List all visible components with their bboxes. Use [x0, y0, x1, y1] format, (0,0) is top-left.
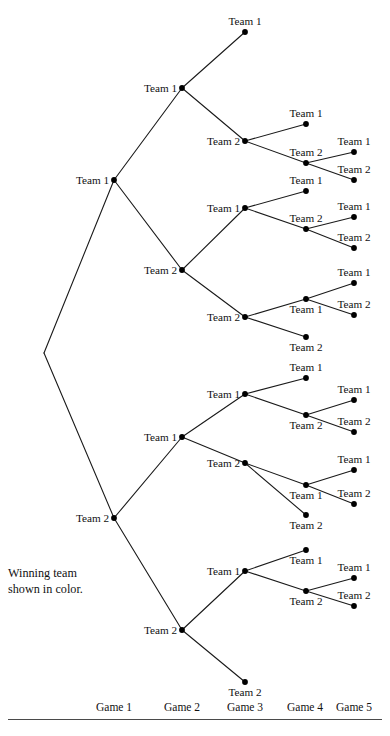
tree-node-label: Team 1	[338, 454, 371, 465]
tree-node-label: Team 1	[144, 432, 177, 443]
tree-node-label: Team 2	[338, 164, 371, 175]
game-axis-label: Game 3	[227, 702, 263, 714]
axis-rule	[8, 719, 382, 720]
tree-node-dot[interactable]	[303, 512, 309, 518]
tree-node-dot[interactable]	[242, 205, 248, 211]
tree-edge	[182, 630, 245, 682]
tree-node-dot[interactable]	[303, 121, 309, 127]
tree-node-label: Team 2	[144, 625, 177, 636]
tree-edge	[114, 180, 182, 270]
tree-node-dot[interactable]	[303, 160, 309, 166]
tree-node-dot[interactable]	[351, 467, 357, 473]
tree-node-label: Team 2	[207, 136, 240, 147]
tree-edge	[182, 208, 245, 270]
tree-node-label: Team 2	[207, 312, 240, 323]
tree-edge	[245, 124, 306, 141]
tree-edge	[114, 88, 182, 180]
tree-node-dot[interactable]	[303, 547, 309, 553]
tree-node-dot[interactable]	[303, 296, 309, 302]
tree-edge	[306, 470, 354, 485]
tree-node-dot[interactable]	[242, 314, 248, 320]
tree-node-dot[interactable]	[303, 375, 309, 381]
tree-node-dot[interactable]	[351, 280, 357, 286]
tree-node-dot[interactable]	[303, 412, 309, 418]
tree-node-dot[interactable]	[179, 267, 185, 273]
tree-node-label: Team 1	[338, 384, 371, 395]
tree-node-label: Team 2	[338, 590, 371, 601]
tree-node-dot[interactable]	[179, 434, 185, 440]
tree-node-dot[interactable]	[351, 214, 357, 220]
game-axis-label: Game 5	[336, 702, 372, 714]
tree-edge	[182, 88, 245, 141]
tree-node-dot[interactable]	[351, 245, 357, 251]
tree-node-dot[interactable]	[303, 482, 309, 488]
tree-node-dot[interactable]	[351, 149, 357, 155]
tree-node-dot[interactable]	[351, 397, 357, 403]
tree-node-label: Team 2	[338, 416, 371, 427]
tree-edge	[182, 571, 245, 630]
tree-node-dot[interactable]	[242, 568, 248, 574]
tree-node-label: Team 1	[290, 555, 323, 566]
tree-node-dot[interactable]	[242, 460, 248, 466]
figure-caption: Winning team shown in color.	[8, 566, 158, 597]
tree-node-dot[interactable]	[111, 515, 117, 521]
tree-node-dot[interactable]	[242, 29, 248, 35]
tree-edge	[306, 400, 354, 415]
game-axis-label: Game 4	[287, 702, 323, 714]
tree-node-label: Team 1	[229, 16, 262, 27]
tree-node-label: Team 2	[290, 520, 323, 531]
tree-node-label: Team 1	[76, 175, 109, 186]
tree-edge	[182, 32, 245, 88]
tree-node-dot[interactable]	[242, 138, 248, 144]
tree-node-dot[interactable]	[242, 391, 248, 397]
tree-node-dot[interactable]	[303, 588, 309, 594]
tree-node-dot[interactable]	[179, 85, 185, 91]
tree-node-label: Team 1	[290, 108, 323, 119]
tree-node-label: Team 1	[207, 566, 240, 577]
tree-node-label: Team 1	[338, 562, 371, 573]
tree-node-dot[interactable]	[179, 627, 185, 633]
tree-node-label: Team 1	[338, 267, 371, 278]
tree-edge	[245, 191, 306, 208]
tree-node-label: Team 1	[290, 490, 323, 501]
tree-edge	[245, 317, 306, 337]
tree-node-dot[interactable]	[303, 334, 309, 340]
tree-node-label: Team 1	[338, 136, 371, 147]
tree-edge	[44, 353, 114, 518]
tree-node-dot[interactable]	[351, 575, 357, 581]
tree-node-label: Team 2	[290, 342, 323, 353]
tree-node-dot[interactable]	[111, 177, 117, 183]
tree-node-dot[interactable]	[303, 226, 309, 232]
tree-node-dot[interactable]	[351, 429, 357, 435]
tree-edge	[306, 283, 354, 299]
tree-node-label: Team 1	[207, 389, 240, 400]
game-axis-label: Game 2	[164, 702, 200, 714]
tree-node-label: Team 1	[290, 304, 323, 315]
tree-node-dot[interactable]	[351, 603, 357, 609]
tree-edge	[182, 270, 245, 317]
caption-line-1: Winning team	[8, 566, 158, 582]
tree-node-dot[interactable]	[351, 312, 357, 318]
game-axis-label: Game 1	[96, 702, 132, 714]
tree-node-dot[interactable]	[242, 679, 248, 685]
tree-edge	[114, 437, 182, 518]
tree-node-label: Team 2	[290, 420, 323, 431]
tree-node-dot[interactable]	[303, 188, 309, 194]
tree-node-label: Team 2	[229, 687, 262, 698]
tree-node-label: Team 2	[207, 458, 240, 469]
tree-node-dot[interactable]	[351, 177, 357, 183]
caption-line-2: shown in color.	[8, 582, 158, 598]
tree-node-label: Team 2	[338, 488, 371, 499]
tree-node-label: Team 2	[338, 299, 371, 310]
tree-node-label: Team 1	[290, 362, 323, 373]
tree-node-label: Team 1	[144, 83, 177, 94]
tree-node-label: Team 2	[338, 232, 371, 243]
tree-diagram-canvas	[0, 0, 390, 736]
tree-edge	[245, 571, 306, 591]
tree-edge	[245, 378, 306, 394]
tree-node-dot[interactable]	[351, 501, 357, 507]
tree-node-label: Team 1	[338, 201, 371, 212]
tree-edge	[44, 180, 114, 353]
tree-edge	[245, 463, 306, 485]
tree-node-label: Team 2	[290, 213, 323, 224]
